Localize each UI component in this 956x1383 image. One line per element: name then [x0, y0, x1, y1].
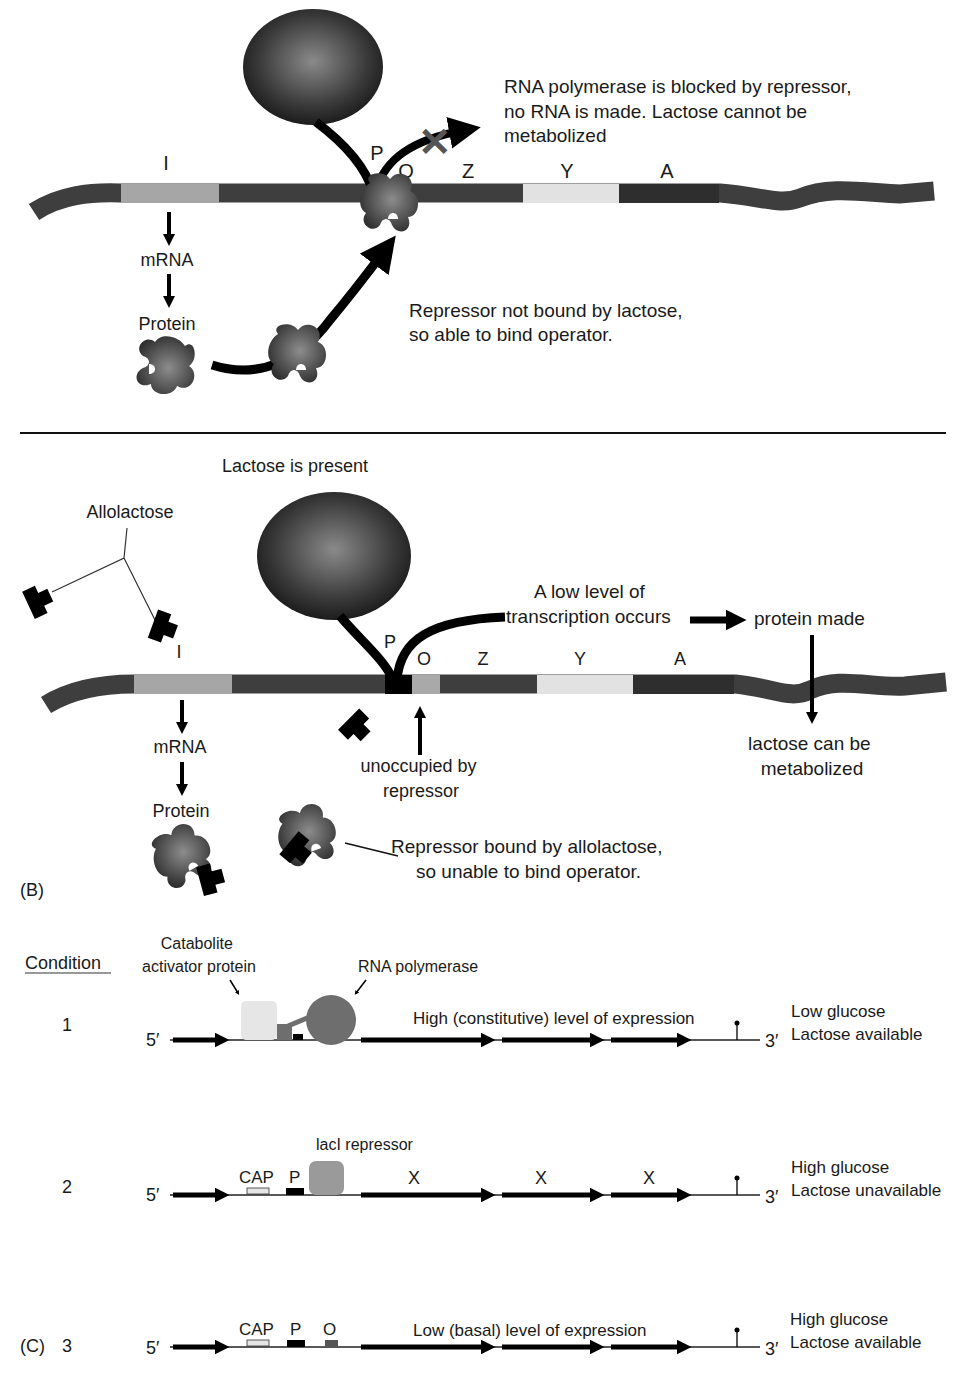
rna-polymerase-icon	[306, 995, 356, 1045]
promoter-box	[286, 1188, 304, 1195]
rna-polymerase-icon	[257, 492, 411, 620]
panel-c-label: (C)	[20, 1336, 45, 1356]
cap-site-box	[247, 1340, 269, 1346]
three-prime-label: 3′	[765, 1339, 779, 1359]
polymerase-stalk	[316, 122, 373, 192]
row-conditions: Low glucose Lactose available	[791, 1002, 922, 1044]
protein-label: Protein	[152, 801, 209, 821]
repressor-note: Repressor not bound by lactose, so able …	[409, 300, 688, 345]
operator-box	[325, 1340, 338, 1347]
rna-polymerase-icon	[243, 9, 383, 125]
panel-b: Lactose is present Allolactose I P O Z Y…	[20, 456, 946, 900]
terminator-head	[735, 1328, 740, 1333]
expression-label: High (constitutive) level of expression	[413, 1009, 695, 1028]
terminator-head	[735, 1176, 740, 1181]
gene-a-region	[619, 184, 719, 203]
gene-label-i: I	[163, 152, 169, 174]
allolactose-molecule-icon	[22, 582, 56, 619]
blocked-x-icon: ✕	[418, 120, 452, 164]
laci-repressor-icon	[309, 1161, 344, 1195]
expression-label: Low (basal) level of expression	[413, 1321, 646, 1340]
promoter-box	[287, 1340, 305, 1347]
five-prime-label: 5′	[146, 1338, 160, 1358]
gene-label-z: Z	[462, 160, 474, 182]
allolactose-label: Allolactose	[86, 502, 173, 522]
gene-off-mark: X	[535, 1168, 547, 1188]
row-number: 1	[62, 1015, 72, 1035]
three-prime-label: 3′	[765, 1031, 779, 1051]
gene-label-o: O	[417, 649, 431, 669]
gene-label-z: Z	[478, 649, 489, 669]
lac-operon-figure: I P O Z Y A ✕ RNA polymerase is blocked …	[0, 0, 956, 1383]
row-conditions: High glucose Lactose available	[790, 1310, 921, 1352]
panel-b-label: (B)	[20, 880, 44, 900]
gene-a-region	[633, 675, 734, 694]
site-label-p: P	[290, 1320, 301, 1339]
panel-b-title: Lactose is present	[222, 456, 368, 476]
repressor-bound-allolactose-icon	[270, 798, 344, 873]
panel-c: Condition Catabolite activator protein R…	[20, 935, 941, 1359]
bound-allolactose-icon	[196, 861, 227, 896]
gene-label-y: Y	[574, 649, 586, 669]
laci-callout: lacI repressor	[316, 1136, 414, 1153]
condition-row-2: lacI repressor 2 5′ CAP P X X X 3′ High …	[62, 1136, 941, 1207]
repressor-note: Repressor bound by allolactose, so unabl…	[391, 836, 668, 882]
site-label-o: O	[323, 1320, 336, 1339]
mrna-label: mRNA	[154, 737, 207, 757]
terminator-head	[735, 1021, 740, 1026]
condition-row-3: (C) 3 5′ CAP P O Low (basal) level of ex…	[20, 1310, 921, 1359]
gene-label-i: I	[176, 642, 181, 662]
gene-i-region	[121, 184, 219, 203]
repressor-protein-icon	[137, 336, 195, 394]
free-allolactose-icon	[338, 709, 376, 747]
condition-row-1: 1 5′ High (constitutive) level of expres…	[62, 995, 922, 1051]
gene-label-p: P	[370, 142, 383, 164]
cap-site-box	[247, 1188, 269, 1194]
mrna-label: mRNA	[141, 250, 194, 270]
allolactose-pointer-lines	[52, 528, 155, 620]
gene-label-a: A	[660, 160, 674, 182]
row-number: 3	[62, 1336, 72, 1356]
rnap-callout-arrow	[356, 980, 366, 993]
site-label-p: P	[289, 1168, 300, 1187]
panel-a: I P O Z Y A ✕ RNA polymerase is blocked …	[20, 9, 946, 433]
gene-i-region	[134, 675, 232, 694]
transcription-note: A low level of transcription occurs	[506, 581, 671, 627]
cap-callout: Catabolite activator protein	[142, 935, 256, 975]
operator-region	[412, 675, 440, 694]
condition-header: Condition	[25, 953, 101, 973]
gene-label-a: A	[674, 649, 686, 669]
protein-label: Protein	[138, 314, 195, 334]
repressor-moving-icon	[268, 324, 326, 382]
metabolized-note: lactose can be metabolized	[748, 733, 876, 779]
gene-off-mark: X	[408, 1168, 420, 1188]
three-prime-label: 3′	[765, 1187, 779, 1207]
gene-off-mark: X	[643, 1168, 655, 1188]
rnap-callout: RNA polymerase	[358, 958, 478, 975]
five-prime-label: 5′	[146, 1185, 160, 1205]
protein-made-label: protein made	[754, 608, 865, 629]
gene-label-y: Y	[560, 160, 573, 182]
row-number: 2	[62, 1177, 72, 1197]
cap-protein-icon	[241, 1001, 277, 1040]
five-prime-label: 5′	[146, 1030, 160, 1050]
operator-note: unoccupied by repressor	[360, 756, 481, 801]
gene-y-region	[523, 184, 619, 203]
site-label-cap: CAP	[239, 1320, 274, 1339]
site-label-cap: CAP	[239, 1168, 274, 1187]
gene-label-p: P	[384, 632, 396, 652]
promoter-box	[293, 1034, 303, 1040]
row-conditions: High glucose Lactose unavailable	[791, 1158, 941, 1200]
cap-callout-arrow	[230, 980, 238, 993]
transcript-arrow	[397, 617, 505, 680]
blocked-note: RNA polymerase is blocked by repressor, …	[504, 76, 857, 146]
gene-y-region	[537, 675, 633, 694]
